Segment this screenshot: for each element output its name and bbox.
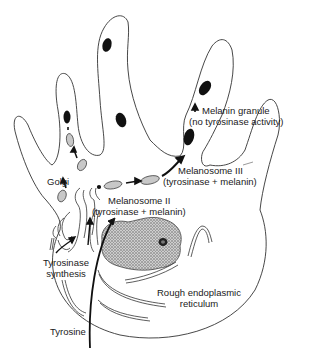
melanin-granules	[64, 37, 214, 146]
label-melanosome-ii-contents: (tyrosinase + melanin)	[92, 206, 186, 217]
melanosomes	[56, 133, 160, 203]
label-melanin-granule: Melanin granule	[202, 105, 270, 116]
label-melanosome-iii-contents: (tyrosinase + melanin)	[163, 176, 257, 187]
tyrosinase-arrows	[56, 218, 93, 253]
label-rough-endoplasmic-reticulum: Rough endoplasmic reticulum	[152, 287, 246, 309]
label-golgi: Golgi	[47, 176, 69, 187]
label-tyrosine: Tyrosine	[50, 326, 86, 337]
nucleus	[102, 217, 182, 270]
label-no-tyrosinase-activity: (no tyrosinase activity)	[189, 116, 284, 127]
label-melanosome-iii: Melanosome III	[178, 165, 243, 176]
label-melanosome-ii: Melanosome II	[108, 195, 170, 206]
leader-lines	[243, 162, 253, 165]
label-tyrosinase-synthesis: Tyrosinase synthesis	[40, 257, 92, 279]
